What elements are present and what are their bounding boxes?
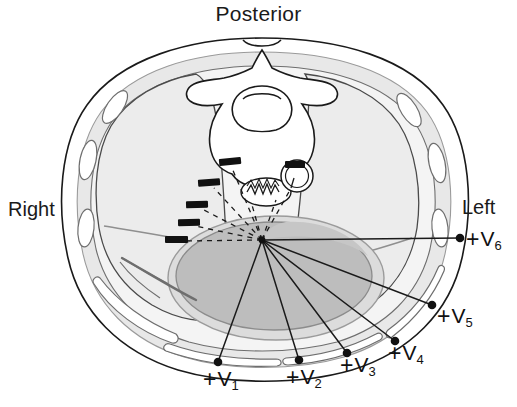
electrode-label-V4: +V4 [388, 340, 424, 367]
polarity-plus-V4: + [388, 340, 401, 366]
lead-name-V3: V [354, 353, 368, 376]
polarity-plus-V5: + [437, 303, 450, 329]
lead-name-V2: V [300, 365, 314, 388]
lead-name-V6: V [480, 227, 494, 250]
polarity-plus-V1: + [203, 366, 216, 392]
lead-subscript-V4: 4 [416, 352, 423, 367]
thorax-cross-section-figure: Posterior Right Left +V1 +V2 +V3 +V4 +V5… [0, 0, 517, 407]
polarity-plus-V3: + [340, 352, 353, 378]
lead-subscript-V1: 1 [231, 378, 238, 393]
lead-subscript-V2: 2 [314, 376, 321, 391]
lead-name-V4: V [402, 341, 416, 364]
orientation-label-right: Right [8, 198, 55, 221]
lead-name-V1: V [217, 367, 231, 390]
negative-marker [165, 236, 188, 243]
negative-marker [285, 161, 305, 168]
electrode-dot-V6 [456, 234, 465, 243]
negative-marker [178, 219, 200, 226]
electrode-label-V6: +V6 [466, 226, 502, 253]
polarity-plus-V2: + [286, 364, 299, 390]
electrode-label-V2: +V2 [286, 364, 322, 391]
negative-marker [186, 201, 208, 209]
lead-subscript-V3: 3 [368, 364, 375, 379]
electrode-dot-V5 [428, 301, 437, 310]
lead-subscript-V6: 6 [494, 238, 501, 253]
orientation-label-left: Left [462, 196, 495, 219]
lead-name-V5: V [451, 304, 465, 327]
electrode-dot-V2 [295, 356, 304, 365]
polarity-plus-V6: + [466, 226, 479, 252]
thorax-diagram-svg [0, 0, 517, 407]
heart-center-origin [259, 237, 266, 244]
heart [168, 216, 384, 340]
electrode-label-V1: +V1 [203, 366, 239, 393]
electrode-dot-V1 [214, 358, 223, 367]
electrode-label-V3: +V3 [340, 352, 376, 379]
lead-subscript-V5: 5 [465, 315, 472, 330]
electrode-label-V5: +V5 [437, 303, 473, 330]
orientation-label-posterior: Posterior [0, 2, 517, 26]
